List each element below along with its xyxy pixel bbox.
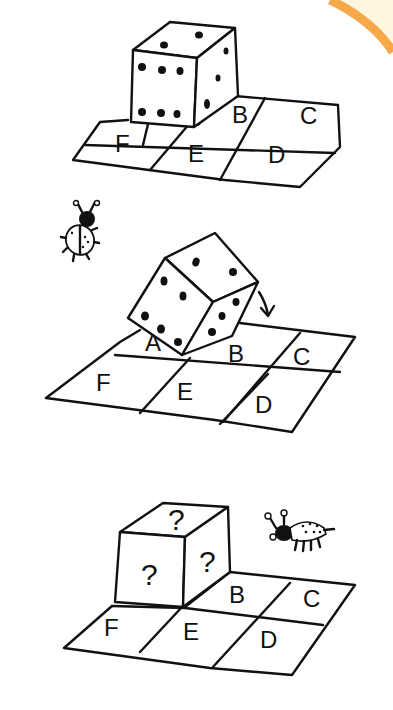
label-d: D — [268, 141, 285, 168]
label-e: E — [183, 618, 199, 645]
label-b: B — [229, 581, 245, 608]
label-c: C — [303, 585, 320, 612]
panel-2: A B C D E F — [46, 233, 355, 432]
label-e: E — [177, 378, 193, 405]
label-d: D — [260, 626, 277, 653]
label-f: F — [115, 130, 130, 157]
die-front-unknown: ? — [141, 558, 158, 591]
label-f: F — [96, 369, 111, 396]
die-panel-3: ? ? ? — [115, 503, 230, 607]
dice-rolling-puzzle: B C D E F — [0, 0, 393, 710]
label-b: B — [228, 340, 244, 367]
label-d: D — [255, 391, 272, 418]
label-c: C — [293, 343, 310, 370]
label-f: F — [104, 614, 119, 641]
label-b: B — [232, 101, 248, 128]
panel-1: B C D E F — [73, 22, 340, 187]
ladybug-icon — [265, 510, 334, 551]
ladybug-icon — [61, 201, 100, 262]
die-panel-1 — [131, 22, 238, 127]
roll-direction-arrow-icon — [259, 292, 274, 316]
die-right-unknown: ? — [199, 545, 216, 578]
label-e: E — [188, 140, 204, 167]
label-c: C — [300, 102, 317, 129]
corner-decoration — [330, 0, 393, 52]
die-top-unknown: ? — [168, 503, 185, 536]
